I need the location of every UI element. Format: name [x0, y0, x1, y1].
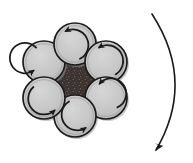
large-curved-direction-arrow — [152, 14, 175, 150]
diagram-canvas: Six shaded circles arranged in a ring ar… — [0, 0, 193, 163]
circle-lower-left[interactable] — [23, 77, 65, 119]
rotation-diagram-svg — [0, 0, 193, 163]
